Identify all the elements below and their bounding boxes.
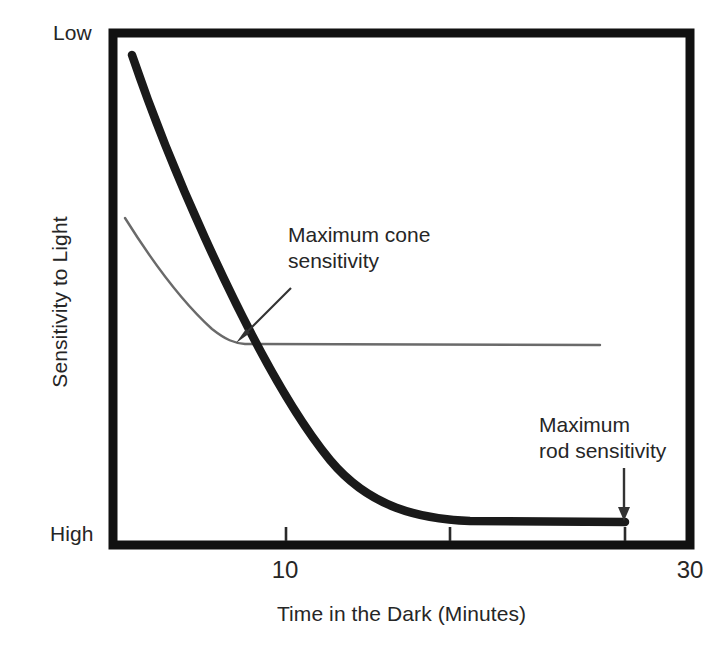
annotation-rod-line-2: rod sensitivity [539, 438, 666, 464]
plot-frame [113, 33, 690, 545]
y-axis-low-label: Low [53, 21, 92, 45]
y-axis-title: Sensitivity to Light [48, 172, 72, 432]
annotation-cone-line-1: Maximum cone [288, 222, 430, 248]
x-tick-label-10: 10 [245, 556, 325, 584]
y-axis-high-label: High [50, 522, 94, 546]
x-axis-title: Time in the Dark (Minutes) [113, 602, 690, 626]
annotation-maximum-rod-sensitivity: Maximum rod sensitivity [539, 412, 666, 464]
plot-frame-rect [113, 33, 690, 545]
dark-adaptation-chart: Sensitivity to Light Time in the Dark (M… [0, 0, 721, 651]
annotation-cone-line-2: sensitivity [288, 248, 430, 274]
x-tick-label-30: 30 [650, 556, 721, 584]
annotation-maximum-cone-sensitivity: Maximum cone sensitivity [288, 222, 430, 274]
chart-canvas [0, 0, 721, 651]
annotation-rod-line-1: Maximum [539, 412, 666, 438]
